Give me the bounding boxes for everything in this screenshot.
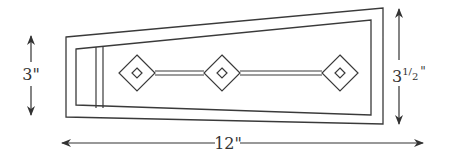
width-dimension: 12" (62, 134, 423, 153)
right-height-dimension: 31/2" (392, 9, 426, 124)
diamond-right (322, 55, 358, 91)
diamond-center (204, 55, 240, 91)
left-height-dimension: 3" (22, 36, 40, 115)
diamond-left (119, 55, 155, 91)
panel-diagram: 3" 31/2" 12" (0, 0, 449, 159)
right-height-label: 31/2" (392, 65, 426, 86)
left-height-label: 3" (22, 65, 40, 84)
width-label: 12" (214, 134, 242, 153)
